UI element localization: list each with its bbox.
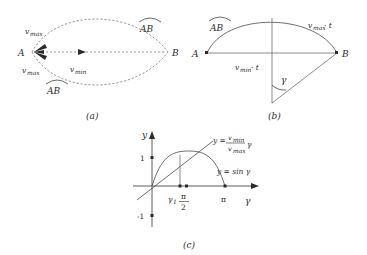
equation-linear-label: y = v min v max γ bbox=[212, 134, 252, 154]
chord-arrowhead-left bbox=[34, 50, 44, 54]
svg-text:max: max bbox=[233, 147, 246, 154]
point-b-label: B bbox=[341, 49, 349, 59]
svg-text:AB: AB bbox=[209, 23, 223, 33]
point-a-marker bbox=[205, 51, 208, 54]
arc-ab-label: AB bbox=[209, 17, 231, 33]
svg-text:γ: γ bbox=[247, 140, 252, 149]
vmax-t-label: v max · t bbox=[308, 21, 333, 31]
xtick-label-pi: π bbox=[221, 195, 226, 204]
arc-ab-bottom-label: AB bbox=[46, 80, 68, 96]
caption-a: (a) bbox=[86, 111, 99, 121]
svg-text:1: 1 bbox=[173, 198, 177, 205]
svg-text:· t: · t bbox=[251, 63, 260, 72]
panel-a: A B v max v max v min AB AB (a) bbox=[0, 0, 190, 125]
xtick-pi-marker bbox=[224, 185, 227, 188]
y-axis-arrowhead bbox=[149, 131, 155, 139]
point-a-label: A bbox=[17, 48, 25, 58]
xtick-gamma1-marker bbox=[179, 185, 182, 188]
ytick-1-marker bbox=[151, 156, 154, 159]
panel-b: A B AB v max · t v min · t γ (b) bbox=[185, 0, 367, 125]
vmax-bottom-label: v max bbox=[22, 66, 40, 76]
equation-sine-label: y = sin γ bbox=[216, 167, 251, 176]
svg-text:min: min bbox=[233, 136, 245, 143]
caption-b: (b) bbox=[268, 111, 281, 121]
svg-text:2: 2 bbox=[181, 203, 186, 212]
ytick-label-neg1: -1 bbox=[137, 212, 144, 221]
caption-c: (c) bbox=[183, 240, 196, 250]
x-axis-label: γ bbox=[245, 196, 251, 206]
svg-text:AB: AB bbox=[46, 86, 60, 96]
arc-ab-top-label: AB bbox=[139, 18, 161, 34]
linear-curve bbox=[137, 141, 213, 200]
svg-text:y =: y = bbox=[212, 136, 226, 145]
svg-text:π: π bbox=[181, 192, 186, 201]
chord-arrowhead bbox=[78, 49, 86, 55]
point-a-label: A bbox=[191, 49, 199, 59]
vmax-top-label: v max bbox=[25, 27, 43, 37]
svg-text:max: max bbox=[30, 30, 43, 37]
vmin-label: v min bbox=[70, 65, 87, 75]
overarc-bottom-icon bbox=[46, 80, 68, 84]
svg-text:AB: AB bbox=[139, 24, 153, 34]
xtick-label-half-pi: π 2 bbox=[179, 192, 189, 212]
svg-text:v: v bbox=[228, 145, 232, 153]
point-b-label: B bbox=[171, 48, 179, 58]
svg-text:min: min bbox=[75, 68, 87, 75]
gamma-angle-arc bbox=[272, 85, 286, 90]
svg-text:v: v bbox=[228, 134, 232, 142]
x-axis-arrowhead bbox=[251, 183, 259, 189]
gamma-angle-label: γ bbox=[281, 75, 287, 85]
arc-bottom-path bbox=[32, 52, 168, 85]
xtick-label-gamma1: γ 1 bbox=[168, 195, 177, 205]
overarc-icon bbox=[209, 17, 231, 21]
svg-text:· t: · t bbox=[324, 21, 333, 30]
sine-curve bbox=[152, 151, 225, 186]
y-axis-label: y bbox=[141, 130, 148, 140]
xtick-halfpi-marker bbox=[185, 185, 188, 188]
vmin-t-label: v min · t bbox=[235, 63, 260, 73]
svg-text:min: min bbox=[240, 66, 252, 73]
panel-c: y γ 1 -1 γ 1 π 2 π y = v min v max γ y = bbox=[95, 122, 285, 255]
ytick-label-1: 1 bbox=[140, 154, 145, 163]
ytick-neg1-marker bbox=[151, 214, 154, 217]
svg-text:max: max bbox=[27, 69, 40, 76]
overarc-top-icon bbox=[139, 18, 161, 22]
